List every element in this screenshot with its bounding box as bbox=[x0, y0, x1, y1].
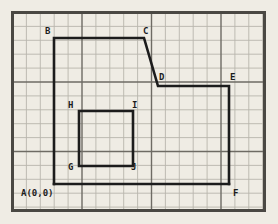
label-A-origin: A(0,0) bbox=[21, 188, 54, 198]
label-C: C bbox=[143, 26, 148, 36]
label-H: H bbox=[68, 100, 73, 110]
label-I: I bbox=[132, 100, 137, 110]
label-E: E bbox=[230, 72, 235, 82]
label-D: D bbox=[159, 72, 165, 82]
geometry-figure: BCDEFHIGJA(0,0) bbox=[0, 0, 278, 224]
label-J: J bbox=[131, 162, 136, 172]
label-F: F bbox=[233, 188, 238, 198]
figure-canvas: BCDEFHIGJA(0,0) bbox=[0, 0, 278, 224]
label-B: B bbox=[45, 26, 51, 36]
label-G: G bbox=[68, 162, 73, 172]
